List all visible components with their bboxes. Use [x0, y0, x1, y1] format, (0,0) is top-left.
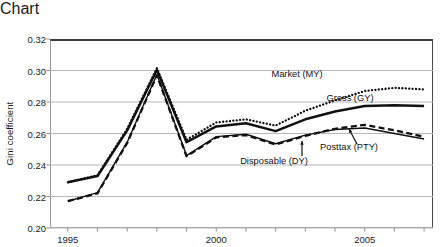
posttax-label: Posttax (PTY) — [320, 142, 378, 152]
disposable-leader-arrow-head — [300, 141, 303, 145]
gini-coefficient-line-chart: Gini coefficient 0.320.300.280.260.240.2… — [0, 18, 443, 247]
disposable-label: Disposable (DY) — [240, 156, 308, 166]
gross-label: Gross (GY) — [326, 93, 373, 103]
chart-graphics-layer — [0, 18, 443, 247]
market-label: Market (MY) — [271, 69, 322, 79]
